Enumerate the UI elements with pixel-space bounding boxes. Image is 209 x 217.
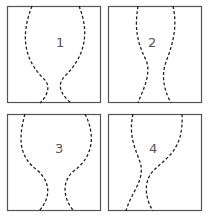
panel-number-label: 3 xyxy=(55,142,63,155)
panel-1: 1 xyxy=(7,6,101,103)
panel-border xyxy=(8,115,101,211)
right-dashed-curve xyxy=(163,6,174,103)
panel-number-label: 2 xyxy=(148,36,156,49)
panel-border xyxy=(109,7,202,103)
panel-drawing xyxy=(7,6,101,103)
right-dashed-curve xyxy=(146,114,182,211)
panel-drawing xyxy=(108,114,202,211)
panel-number-label: 1 xyxy=(56,36,64,49)
panel-3: 3 xyxy=(7,114,101,211)
panel-2: 2 xyxy=(108,6,202,103)
left-dashed-curve xyxy=(136,6,147,103)
panel-border xyxy=(109,115,202,211)
panel-border xyxy=(8,7,101,103)
left-dashed-curve xyxy=(25,6,47,103)
panel-drawing xyxy=(108,6,202,103)
panel-4: 4 xyxy=(108,114,202,211)
right-dashed-curve xyxy=(65,114,91,211)
panel-drawing xyxy=(7,114,101,211)
left-dashed-curve xyxy=(21,114,48,211)
panel-number-label: 4 xyxy=(149,142,157,155)
left-dashed-curve xyxy=(126,114,141,211)
right-dashed-curve xyxy=(60,6,84,103)
